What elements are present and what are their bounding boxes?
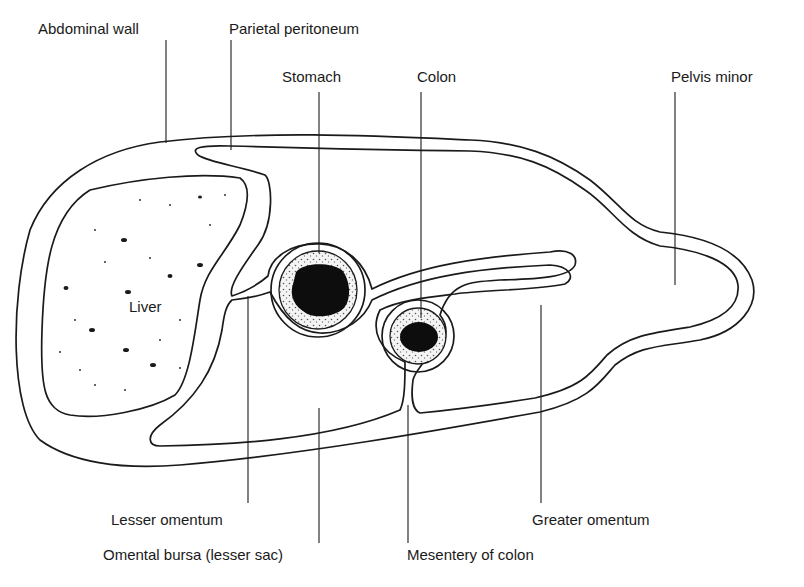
label-colon: Colon [417, 69, 456, 84]
label-stomach: Stomach [282, 69, 341, 84]
stomach [271, 243, 365, 337]
label-abdominal-wall: Abdominal wall [38, 21, 139, 36]
label-lesser-omentum: Lesser omentum [111, 512, 223, 527]
label-omental-bursa: Omental bursa (lesser sac) [103, 547, 283, 562]
colon [382, 300, 454, 372]
colon-lumen [400, 322, 438, 352]
peritoneum-diagram [0, 0, 804, 587]
label-liver: Liver [129, 299, 162, 314]
liver-outline [42, 176, 248, 417]
label-parietal-peritoneum: Parietal peritoneum [229, 21, 359, 36]
label-mesentery-of-colon: Mesentery of colon [407, 547, 534, 562]
omental-bursa [150, 265, 570, 446]
label-greater-omentum: Greater omentum [532, 512, 650, 527]
parietal-peritoneum-line [195, 146, 738, 413]
label-pelvis-minor: Pelvis minor [671, 69, 753, 84]
stomach-lumen [292, 264, 349, 316]
